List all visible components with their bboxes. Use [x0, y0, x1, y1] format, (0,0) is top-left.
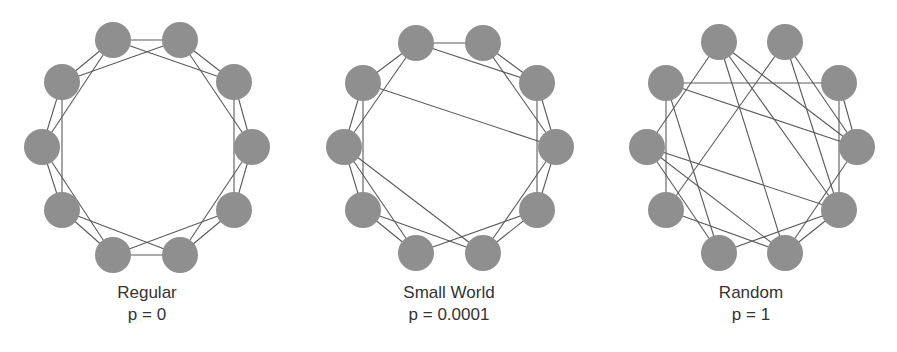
caption-param: p = 1: [651, 304, 851, 326]
caption-param: p = 0.0001: [349, 304, 549, 326]
edge-TR-LL: [666, 42, 785, 210]
edge-TL-LR: [719, 42, 839, 210]
node-UR: [821, 65, 857, 101]
node-UL: [648, 65, 684, 101]
node-L: [629, 129, 665, 165]
node-UR: [216, 64, 252, 100]
node-R: [839, 129, 875, 165]
node-BL: [701, 235, 737, 271]
regular-nodes: [24, 22, 270, 273]
node-R: [538, 129, 574, 165]
node-TR: [465, 25, 501, 61]
panel-regular-graph: [24, 22, 270, 273]
caption-title: Regular: [47, 282, 247, 304]
caption-param: p = 0: [47, 304, 247, 326]
node-TR: [767, 24, 803, 60]
node-UL: [345, 65, 381, 101]
caption-small-world: Small World p = 0.0001: [349, 282, 549, 326]
panel-small-world-graph: [326, 25, 574, 271]
node-BR: [767, 235, 803, 271]
node-TL: [95, 22, 131, 58]
node-R: [234, 129, 270, 165]
edge-TL-BR: [719, 42, 785, 253]
node-L: [326, 129, 362, 165]
node-L: [24, 129, 60, 165]
node-LR: [519, 192, 555, 228]
node-LL: [648, 192, 684, 228]
node-LL: [345, 192, 381, 228]
node-LR: [216, 192, 252, 228]
panel-random-graph: [629, 24, 875, 271]
node-TL: [701, 24, 737, 60]
caption-title: Random: [651, 282, 851, 304]
node-BR: [162, 237, 198, 273]
node-BR: [465, 235, 501, 271]
node-LL: [44, 192, 80, 228]
node-TL: [398, 25, 434, 61]
node-UR: [519, 65, 555, 101]
node-TR: [162, 22, 198, 58]
node-UL: [44, 64, 80, 100]
node-BL: [398, 235, 434, 271]
node-LR: [821, 192, 857, 228]
caption-regular: Regular p = 0: [47, 282, 247, 326]
node-BL: [95, 237, 131, 273]
caption-title: Small World: [349, 282, 549, 304]
caption-random: Random p = 1: [651, 282, 851, 326]
